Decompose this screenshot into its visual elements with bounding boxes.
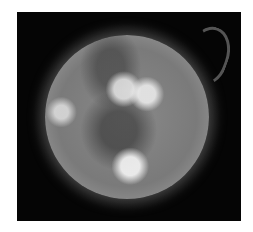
- sun-disk: [45, 35, 209, 199]
- solar-image-frame: [17, 12, 241, 221]
